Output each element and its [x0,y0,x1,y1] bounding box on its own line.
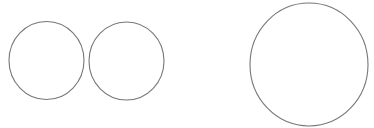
diagram-canvas [0,0,374,128]
diagram-svg [0,0,374,128]
left-circle [9,22,84,100]
large-right-circle [250,3,368,126]
middle-circle [89,22,164,100]
